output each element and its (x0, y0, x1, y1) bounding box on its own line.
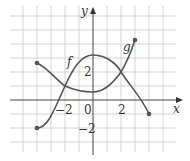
f-end-point (147, 112, 152, 117)
g-end-point (133, 38, 138, 43)
g-label: g (123, 41, 131, 53)
x-axis-label: x (173, 103, 180, 115)
y-axis-arrow-icon (90, 7, 96, 14)
tick-y-neg2: −2 (78, 123, 96, 135)
f-start-point (35, 126, 40, 131)
graph-canvas (0, 0, 190, 161)
y-axis-label: y (81, 5, 88, 17)
tick-x-2: 2 (118, 104, 126, 116)
tick-origin: 0 (84, 104, 92, 116)
tick-x-neg2: −2 (55, 104, 73, 116)
g-start-point (35, 61, 40, 66)
tick-y-2: 2 (84, 66, 92, 78)
f-label: f (67, 56, 71, 68)
